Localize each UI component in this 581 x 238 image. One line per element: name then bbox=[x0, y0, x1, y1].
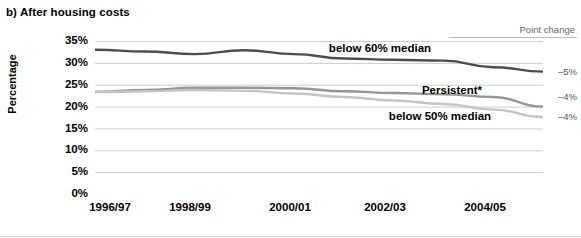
x-tick-label: 1998/99 bbox=[145, 201, 235, 213]
y-tick-label: 0% bbox=[36, 188, 88, 200]
x-tick-label: 1996/97 bbox=[65, 201, 155, 213]
y-tick-label: 25% bbox=[36, 79, 88, 91]
point-change-header: Point change bbox=[520, 24, 575, 35]
series-label-below-60-median: below 60% median bbox=[329, 42, 431, 54]
y-tick-label: 30% bbox=[36, 57, 88, 69]
series-label-below-50-median: below 50% median bbox=[389, 110, 491, 122]
chart-figure: b) After housing costs Percentage 35% 30… bbox=[0, 0, 581, 238]
series-label-persistent: Persistent* bbox=[422, 84, 482, 96]
y-tick-label: 10% bbox=[36, 144, 88, 156]
x-tick-label: 2004/05 bbox=[440, 201, 530, 213]
point-change-value-persistent: –4% bbox=[558, 91, 577, 102]
footer-divider bbox=[0, 236, 581, 237]
y-tick-label: 15% bbox=[36, 123, 88, 135]
point-change-value-below-50-median: –4% bbox=[558, 111, 577, 122]
y-axis-title: Percentage bbox=[6, 24, 18, 144]
point-change-value-below-60-median: –5% bbox=[558, 66, 577, 77]
y-tick-label: 5% bbox=[36, 166, 88, 178]
x-tick-label: 2002/03 bbox=[340, 201, 430, 213]
series-line-0 bbox=[95, 50, 543, 72]
point-change-divider bbox=[449, 37, 577, 38]
x-tick-label: 2000/01 bbox=[245, 201, 335, 213]
y-tick-label: 20% bbox=[36, 101, 88, 113]
y-tick-label: 35% bbox=[36, 35, 88, 47]
